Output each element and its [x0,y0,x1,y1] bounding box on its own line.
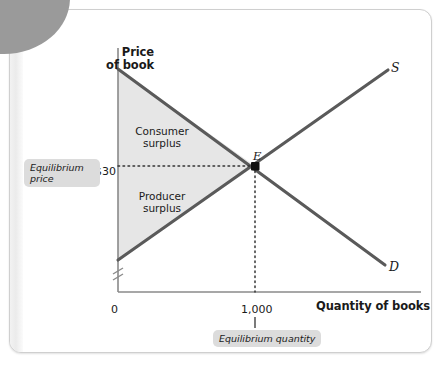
x-axis-origin-tick-label: 0 [111,303,118,316]
supply-curve-label: S [391,60,400,75]
supply-demand-figure: Price of book Quantity of books 0 1,000 … [10,10,431,352]
figure-stage: Price of book Quantity of books 0 1,000 … [0,0,440,368]
figure-card: Price of book Quantity of books 0 1,000 … [9,9,432,353]
demand-curve-label: D [389,259,399,274]
x-axis-title: Quantity of books [316,300,430,313]
y-axis-title: Price of book [68,46,154,72]
producer-surplus-label: Producer surplus [126,190,198,214]
x-axis-quantity-tick-label: 1,000 [241,303,273,316]
consumer-surplus-label: Consumer surplus [126,125,198,149]
equilibrium-point-marker [251,162,260,171]
equilibrium-price-callout: Equilibrium price [24,159,100,187]
equilibrium-quantity-callout: Equilibrium quantity [213,330,321,347]
equilibrium-point-label: E [253,149,261,163]
